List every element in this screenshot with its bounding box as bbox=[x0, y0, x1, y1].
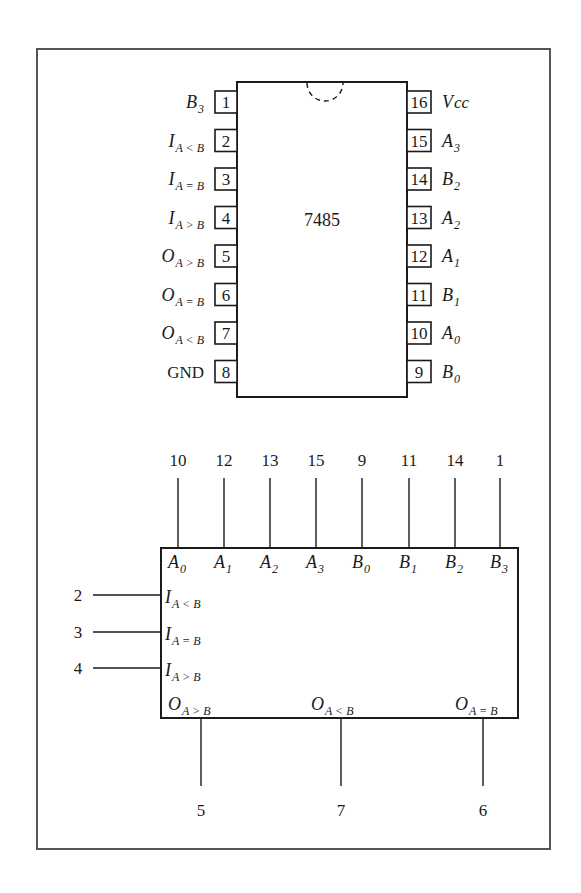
pin-number: 12 bbox=[216, 451, 233, 470]
pin-label: A0 bbox=[441, 323, 460, 347]
pin-label: B0 bbox=[442, 362, 460, 386]
pin-label: Vcc bbox=[442, 92, 470, 112]
pin-number: 9 bbox=[415, 363, 424, 382]
dip-pin-6: 6OA = B bbox=[161, 284, 237, 309]
pin-number: 2 bbox=[222, 132, 231, 151]
pin-number: 8 bbox=[222, 363, 231, 382]
dip-pin-9: 9B0 bbox=[407, 361, 460, 386]
dip-pin-7: 7OA < B bbox=[161, 322, 237, 347]
pin-number: 3 bbox=[74, 623, 83, 642]
dip-pin-13: 13A2 bbox=[407, 207, 460, 232]
dip-pin-5: 5OA > B bbox=[161, 245, 237, 270]
pin-number: 14 bbox=[411, 170, 429, 189]
pin-number: 4 bbox=[222, 209, 231, 228]
chip-name: 7485 bbox=[304, 210, 340, 230]
dip-pin-3: 3IA = B bbox=[167, 168, 237, 193]
logic-symbol bbox=[161, 548, 518, 718]
pin-label: B3 bbox=[186, 92, 204, 116]
pin-label: A1 bbox=[441, 246, 460, 270]
pin-label: A2 bbox=[441, 208, 460, 232]
pin-label: B2 bbox=[442, 169, 460, 193]
pin-number: 7 bbox=[337, 801, 346, 820]
pin-number: 13 bbox=[411, 209, 428, 228]
pin-number: 7 bbox=[222, 324, 231, 343]
pin-number: 5 bbox=[197, 801, 206, 820]
dip-pin-12: 12A1 bbox=[407, 245, 460, 270]
logic-symbol-body bbox=[161, 548, 518, 718]
dip-pin-11: 11B1 bbox=[407, 284, 460, 309]
pin-number: 1 bbox=[496, 451, 505, 470]
pin-number: 9 bbox=[358, 451, 367, 470]
pin-number: 3 bbox=[222, 170, 231, 189]
pin-number: 16 bbox=[411, 93, 428, 112]
pin-label: IA = B bbox=[167, 169, 204, 193]
pin-number: 2 bbox=[74, 586, 83, 605]
dip-pin-15: 15A3 bbox=[407, 130, 460, 155]
dip-pin-8: 8GND bbox=[167, 361, 237, 383]
pin-number: 10 bbox=[170, 451, 187, 470]
dip-pin-2: 2IA < B bbox=[167, 130, 237, 155]
output-5: OA > B5 bbox=[168, 694, 211, 820]
output-7: OA < B7 bbox=[311, 694, 354, 820]
pin-number: 13 bbox=[262, 451, 279, 470]
pin-number: 10 bbox=[411, 324, 428, 343]
pin-label: OA < B bbox=[161, 323, 204, 347]
dip-pin-4: 4IA > B bbox=[167, 207, 237, 232]
dip-body bbox=[237, 82, 407, 397]
dip-pin-1: 1B3 bbox=[186, 91, 237, 116]
pin-label: OA > B bbox=[161, 246, 204, 270]
pin-number: 4 bbox=[74, 659, 83, 678]
dip-right-pins: 16Vcc15A314B213A212A111B110A09B0 bbox=[407, 91, 470, 386]
logic-symbol-left-inputs: 2IA < B3IA = B4IA > B bbox=[74, 586, 201, 684]
pin-label: IA > B bbox=[167, 208, 204, 232]
pin-number: 14 bbox=[447, 451, 465, 470]
pin-label: OA = B bbox=[161, 285, 204, 309]
pin-number: 15 bbox=[308, 451, 325, 470]
dip-pin-16: 16Vcc bbox=[407, 91, 470, 113]
pin-number: 15 bbox=[411, 132, 428, 151]
pin-number: 11 bbox=[401, 451, 417, 470]
pin-number: 6 bbox=[479, 801, 488, 820]
pin-number: 5 bbox=[222, 247, 231, 266]
dip-package: 7485 bbox=[237, 82, 407, 397]
pin-number: 12 bbox=[411, 247, 428, 266]
pin-number: 11 bbox=[411, 286, 427, 305]
pin-number: 1 bbox=[222, 93, 231, 112]
dip-pin-10: 10A0 bbox=[407, 322, 460, 347]
dip-left-pins: 1B32IA < B3IA = B4IA > B5OA > B6OA = B7O… bbox=[161, 91, 237, 383]
dip-pin-14: 14B2 bbox=[407, 168, 460, 193]
pin-label: A3 bbox=[441, 131, 460, 155]
pin-number: 6 bbox=[222, 286, 231, 305]
pin-label: B1 bbox=[442, 285, 460, 309]
output-6: OA = B6 bbox=[455, 694, 498, 820]
comparator-7485-diagram: 7485 1B32IA < B3IA = B4IA > B5OA > B6OA … bbox=[0, 0, 581, 893]
pin-label: IA < B bbox=[167, 131, 204, 155]
pin-label: GND bbox=[167, 363, 204, 382]
